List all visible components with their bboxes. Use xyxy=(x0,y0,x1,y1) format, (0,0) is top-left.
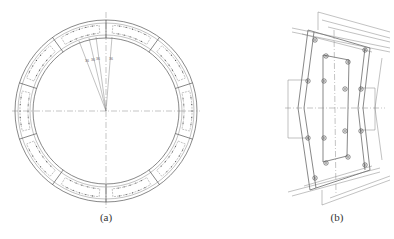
caption-b: (b) xyxy=(317,211,357,223)
panel-a-ring-drawing: 36 36 36 36 (a) xyxy=(0,0,210,239)
angle-label: 36 xyxy=(96,57,100,61)
panel-b-segment-detail: (b) xyxy=(210,0,394,239)
inner-panel xyxy=(323,55,349,162)
caption-a: (a) xyxy=(86,211,126,223)
segment-left-edge-2 xyxy=(304,32,316,188)
dimension-lines-bottom xyxy=(288,168,390,205)
segment-right-edge-2 xyxy=(363,48,370,170)
segment-right-edge xyxy=(358,48,365,170)
segment-svg xyxy=(210,0,394,239)
angle-label: 36 xyxy=(109,57,113,61)
angle-lines: 36 36 36 36 xyxy=(79,37,113,111)
dimension-lines-top xyxy=(292,12,390,52)
angle-label: 36 xyxy=(85,59,89,63)
ring-svg: 36 36 36 36 xyxy=(0,0,210,239)
angle-label: 36 xyxy=(91,58,95,62)
